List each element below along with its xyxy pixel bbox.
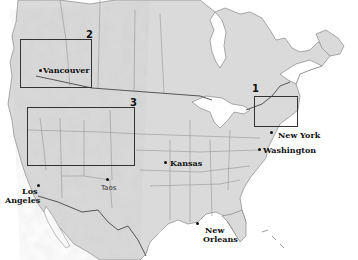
city-label-kansas: Kansas <box>170 159 202 167</box>
city-label-taos: Taos <box>101 184 116 192</box>
city-label-washington: Washington <box>263 146 316 154</box>
city-label-vancouver: Vancouver <box>43 66 89 74</box>
region-box-2[interactable] <box>20 39 92 88</box>
city-marker-vancouver <box>39 69 42 72</box>
region-number-1: 1 <box>252 84 259 94</box>
city-label-angeles: Angeles <box>5 196 40 204</box>
city-marker-kansas <box>164 161 167 164</box>
region-number-3: 3 <box>130 98 137 108</box>
city-label-new: New <box>205 226 224 234</box>
region-box-1[interactable] <box>254 96 298 127</box>
city-label-orleans: Orleans <box>203 235 238 243</box>
north-america-map: 1 2 3 Vancouver New York Washington Kans… <box>0 0 358 260</box>
city-marker-new-york <box>270 131 273 134</box>
city-label-los: Los <box>22 187 37 195</box>
bahamas <box>262 230 284 248</box>
city-label-new-york: New York <box>278 131 320 139</box>
city-marker-washington <box>258 148 261 151</box>
city-marker-taos <box>106 178 109 181</box>
region-number-2: 2 <box>86 30 93 40</box>
region-box-3[interactable] <box>27 107 135 166</box>
city-marker-new-orleans <box>196 222 199 225</box>
